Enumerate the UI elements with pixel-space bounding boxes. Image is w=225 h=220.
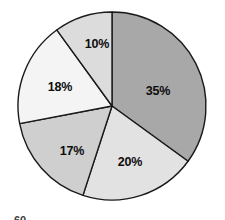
pie-slice-label-35: 35% [146,84,171,98]
pie-chart-figure: 35%20%17%18%10% 60 [0,0,225,220]
pie-slice-label-10: 10% [85,37,110,51]
pie-chart-svg: 35%20%17%18%10% [0,0,225,220]
pie-slice-label-18: 18% [48,80,73,94]
pie-slices-group [18,12,206,200]
pie-slice-label-17: 17% [60,144,85,158]
page-number: 60 [14,215,26,220]
pie-slice-label-20: 20% [118,155,143,169]
